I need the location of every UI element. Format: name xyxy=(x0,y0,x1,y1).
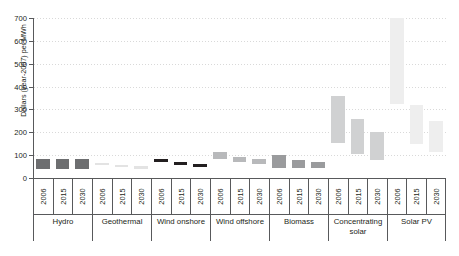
x-year-label: 2015 xyxy=(59,188,68,204)
y-tick-label: 200 xyxy=(14,128,27,137)
x-group-biomass: 200620152030Biomass xyxy=(269,179,328,241)
y-tick xyxy=(29,41,33,42)
x-year-label-cell: 2015 xyxy=(231,179,251,214)
bar xyxy=(115,165,129,167)
bar xyxy=(154,159,168,162)
x-year-label: 2015 xyxy=(118,188,127,204)
y-tick-label: 100 xyxy=(14,151,27,160)
x-year-label-cell: 2015 xyxy=(407,179,426,214)
x-year-label: 2015 xyxy=(295,188,304,204)
y-tick xyxy=(29,109,33,110)
bar xyxy=(95,163,109,165)
y-tick-label: 600 xyxy=(14,36,27,45)
bar xyxy=(331,96,345,143)
bar xyxy=(429,121,443,152)
x-group-label: Wind offshore xyxy=(211,215,269,241)
y-tick-label: 0 xyxy=(23,174,27,183)
bar xyxy=(311,162,325,168)
x-group-label: Hydro xyxy=(34,215,92,241)
x-year-label-cell: 2030 xyxy=(73,179,92,214)
bar xyxy=(75,159,89,169)
x-year-label: 2030 xyxy=(255,188,264,204)
bar xyxy=(233,157,247,162)
gridline xyxy=(34,87,446,88)
bar xyxy=(272,155,286,168)
x-year-label-cell: 2006 xyxy=(388,179,407,214)
bar xyxy=(351,119,365,154)
plot-area: 0100200300400500600700 xyxy=(33,18,446,178)
y-tick-label: 300 xyxy=(14,105,27,114)
x-group-label: Geothermal xyxy=(93,215,151,241)
x-year-label-cell: 2015 xyxy=(290,179,310,214)
x-year-label: 2030 xyxy=(431,188,440,204)
x-year-label: 2006 xyxy=(275,188,284,204)
bar xyxy=(193,164,207,167)
x-year-label-cell: 2030 xyxy=(191,179,210,214)
x-year-label: 2015 xyxy=(177,188,186,204)
x-year-label-cell: 2030 xyxy=(250,179,269,214)
gridline xyxy=(34,18,446,19)
gridline xyxy=(34,155,446,156)
x-year-label-cell: 2006 xyxy=(93,179,113,214)
bar xyxy=(390,18,404,104)
x-group-label: Concentratingsolar xyxy=(329,215,387,241)
bar xyxy=(292,160,306,168)
x-year-label-cell: 2006 xyxy=(329,179,349,214)
x-group-concentrating-solar: 200620152030Concentratingsolar xyxy=(328,179,387,241)
x-year-label: 2006 xyxy=(393,188,402,204)
y-tick xyxy=(29,155,33,156)
x-year-label: 2006 xyxy=(216,188,225,204)
x-year-label: 2030 xyxy=(78,188,87,204)
x-year-label-cell: 2006 xyxy=(270,179,290,214)
x-year-label: 2006 xyxy=(157,188,166,204)
bar xyxy=(410,105,424,144)
x-year-label: 2030 xyxy=(314,188,323,204)
x-group-label: Wind onshore xyxy=(152,215,210,241)
y-tick xyxy=(29,64,33,65)
gridline xyxy=(34,64,446,65)
y-tick xyxy=(29,132,33,133)
bar xyxy=(370,132,384,160)
x-year-label: 2015 xyxy=(236,188,245,204)
gridline xyxy=(34,109,446,110)
x-year-label-cell: 2030 xyxy=(368,179,387,214)
x-group-wind-onshore: 200620152030Wind onshore xyxy=(151,179,210,241)
x-year-label-cell: 2015 xyxy=(172,179,192,214)
x-year-label: 2030 xyxy=(137,188,146,204)
bar xyxy=(174,162,188,165)
bar xyxy=(36,159,50,169)
gridline xyxy=(34,41,446,42)
x-year-label-cell: 2006 xyxy=(34,179,54,214)
x-group-solar-pv: 200620152030Solar PV xyxy=(387,179,446,241)
x-year-label-cell: 2030 xyxy=(309,179,328,214)
y-tick-label: 400 xyxy=(14,82,27,91)
x-year-label-cell: 2015 xyxy=(349,179,369,214)
x-group-wind-offshore: 200620152030Wind offshore xyxy=(210,179,269,241)
bar xyxy=(213,152,227,159)
x-year-label-cell: 2006 xyxy=(211,179,231,214)
bar xyxy=(252,159,266,164)
x-group-label: Solar PV xyxy=(388,215,445,241)
x-year-label-cell: 2030 xyxy=(427,179,445,214)
x-axis-groups: 200620152030Hydro200620152030Geothermal2… xyxy=(33,179,446,241)
gridline xyxy=(34,132,446,133)
y-tick-label: 700 xyxy=(14,14,27,23)
x-year-label-cell: 2030 xyxy=(132,179,151,214)
y-axis-line xyxy=(33,18,34,178)
x-group-geothermal: 200620152030Geothermal xyxy=(92,179,151,241)
bar xyxy=(134,166,148,169)
x-year-label-cell: 2015 xyxy=(113,179,133,214)
y-tick xyxy=(29,87,33,88)
bar xyxy=(56,159,70,169)
x-year-label: 2030 xyxy=(196,188,205,204)
x-year-label: 2015 xyxy=(354,188,363,204)
chart-container: Dollars (year-2007) per MWh 010020030040… xyxy=(0,0,459,256)
x-year-label-cell: 2006 xyxy=(152,179,172,214)
x-year-label: 2006 xyxy=(334,188,343,204)
x-year-label: 2006 xyxy=(98,188,107,204)
x-year-label: 2030 xyxy=(373,188,382,204)
x-year-label-cell: 2015 xyxy=(54,179,74,214)
x-year-label: 2015 xyxy=(412,188,421,204)
y-tick xyxy=(29,18,33,19)
x-group-hydro: 200620152030Hydro xyxy=(33,179,92,241)
